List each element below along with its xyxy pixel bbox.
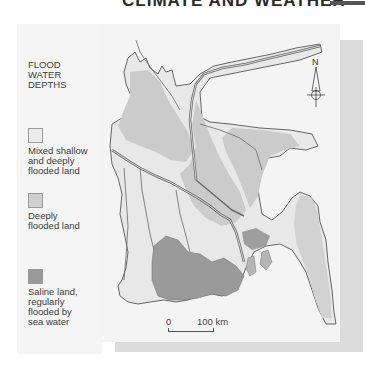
scale-start-label: 0 bbox=[166, 316, 171, 327]
legend-swatch-deep bbox=[28, 193, 43, 208]
legend-label-deep: Deeply flooded land bbox=[28, 211, 103, 231]
bangladesh-map-graphic bbox=[100, 24, 340, 342]
section-title: CLIMATE AND WEATHER bbox=[122, 0, 346, 11]
scale-end-label: 100 km bbox=[197, 316, 228, 327]
legend-item-saline: Saline land, regularly flooded by sea wa… bbox=[28, 269, 103, 327]
legend-swatch-mixed bbox=[28, 128, 43, 143]
scale-line bbox=[168, 328, 214, 332]
legend-label-mixed: Mixed shallow and deeply flooded land bbox=[28, 146, 103, 176]
island bbox=[260, 250, 272, 270]
legend-swatch-saline bbox=[28, 269, 43, 284]
compass-north-label: N bbox=[312, 57, 319, 67]
legend-label-saline: Saline land, regularly flooded by sea wa… bbox=[28, 287, 103, 327]
legend-item-deep: Deeply flooded land bbox=[28, 193, 103, 231]
compass-icon bbox=[306, 67, 326, 117]
legend-item-mixed: Mixed shallow and deeply flooded land bbox=[28, 128, 103, 176]
flood-map bbox=[100, 24, 340, 342]
legend-title: FLOOD WATER DEPTHS bbox=[28, 60, 98, 90]
header-accent-bar bbox=[330, 1, 365, 5]
